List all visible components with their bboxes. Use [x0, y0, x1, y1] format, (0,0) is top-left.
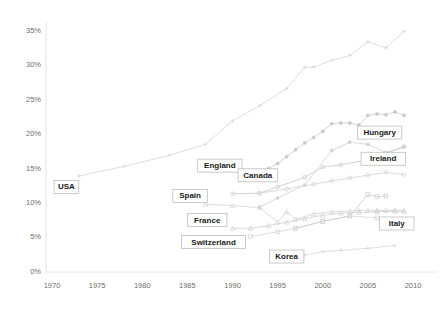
x-tick-label: 1990: [224, 281, 241, 290]
data-point: [122, 164, 126, 168]
label-box-hungary[interactable]: Hungary: [357, 126, 401, 139]
label-box-england[interactable]: England: [198, 159, 242, 172]
x-tick-label: 2005: [360, 281, 377, 290]
y-tick-label: 5%: [30, 232, 41, 241]
y-tick-label: 15%: [26, 164, 41, 173]
line-chart: 0%5%10%15%20%25%30%35% 19701975198019851…: [0, 0, 445, 314]
data-point: [393, 110, 396, 113]
x-tick-label: 1980: [134, 281, 151, 290]
series-line: [305, 246, 395, 256]
series-canada: [258, 171, 406, 195]
x-tick-label: 1975: [89, 281, 106, 290]
data-point: [339, 248, 343, 252]
x-tick-label: 1985: [179, 281, 196, 290]
data-point: [393, 244, 397, 248]
series-korea: [303, 244, 397, 257]
x-tick-label: 1995: [269, 281, 286, 290]
series-switzerland: [249, 214, 379, 238]
label-box-ireland[interactable]: Ireland: [361, 152, 405, 165]
label-box-text: Korea: [275, 252, 298, 261]
series-line: [79, 31, 404, 176]
label-box-text: Spain: [179, 191, 201, 200]
x-axis-tick-labels: 197019751980198519901995200020052010: [44, 281, 422, 290]
series-usa: [77, 29, 406, 177]
data-series-group: [77, 29, 406, 257]
data-point: [330, 58, 334, 62]
data-point: [276, 162, 279, 165]
data-point: [312, 136, 315, 139]
data-point: [366, 143, 369, 146]
label-box-text: Switzerland: [191, 238, 236, 247]
data-point: [330, 149, 333, 152]
y-tick-label: 25%: [26, 95, 41, 104]
data-point: [330, 122, 333, 125]
y-tick-label: 20%: [26, 129, 41, 138]
data-point: [384, 113, 387, 116]
data-point: [285, 155, 288, 158]
data-point: [321, 250, 325, 254]
data-point: [366, 114, 369, 117]
label-box-switzerland[interactable]: Switzerland: [182, 236, 246, 249]
x-tick-label: 2010: [405, 281, 422, 290]
data-point: [348, 121, 351, 124]
chart-container: 0%5%10%15%20%25%30%35% 19701975198019851…: [0, 0, 445, 314]
y-tick-label: 35%: [26, 26, 41, 35]
data-point: [402, 114, 405, 117]
label-box-text: Ireland: [370, 154, 396, 163]
label-box-italy[interactable]: Italy: [380, 217, 415, 230]
x-tick-label: 2000: [314, 281, 331, 290]
data-point: [167, 153, 171, 157]
label-box-text: Italy: [389, 219, 406, 228]
data-point: [303, 141, 306, 144]
y-tick-label: 10%: [26, 198, 41, 207]
data-point: [366, 246, 370, 250]
data-point: [77, 174, 81, 178]
label-box-canada[interactable]: Canada: [238, 169, 277, 182]
data-point: [339, 121, 342, 124]
y-tick-label: 30%: [26, 60, 41, 69]
label-box-spain[interactable]: Spain: [173, 189, 208, 202]
data-point: [348, 141, 351, 144]
series-line: [251, 216, 377, 237]
label-box-text: England: [204, 161, 236, 170]
label-box-usa[interactable]: USA: [54, 180, 79, 193]
data-point: [321, 130, 324, 133]
label-box-text: USA: [58, 182, 75, 191]
y-axis-tick-labels: 0%5%10%15%20%25%30%35%: [26, 26, 41, 276]
label-box-text: Canada: [243, 171, 272, 180]
data-point: [258, 104, 262, 108]
label-box-france[interactable]: France: [188, 214, 227, 227]
x-tick-label: 1970: [44, 281, 61, 290]
label-box-korea[interactable]: Korea: [269, 250, 304, 263]
y-tick-label: 0%: [30, 267, 41, 276]
series-line: [205, 204, 404, 222]
axis-spines: [46, 22, 437, 272]
label-box-text: France: [194, 216, 221, 225]
data-point: [294, 148, 297, 151]
label-box-text: Hungary: [363, 128, 396, 137]
series-england: [258, 141, 405, 209]
data-point: [276, 197, 279, 200]
data-point: [375, 113, 378, 116]
data-point: [312, 65, 316, 69]
